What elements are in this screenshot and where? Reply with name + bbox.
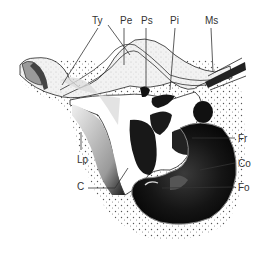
label-ms: Ms	[205, 16, 218, 26]
label-c: C	[77, 182, 84, 192]
label-co: Co	[238, 159, 251, 169]
label-pi: Pi	[170, 16, 179, 26]
label-ty: Ty	[92, 16, 103, 26]
label-fo: Fo	[238, 183, 250, 193]
anatomy-figure	[0, 0, 262, 257]
label-fr: Fr	[238, 134, 247, 144]
label-lp: Lp	[77, 155, 88, 165]
label-pe: Pe	[120, 16, 132, 26]
label-ps: Ps	[141, 16, 153, 26]
